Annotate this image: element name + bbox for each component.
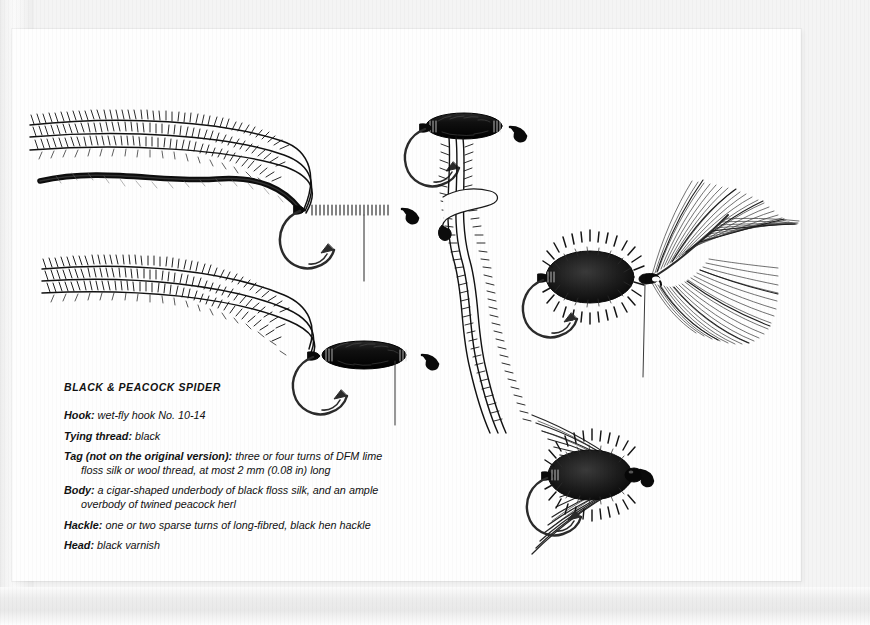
scanned-page-background: BLACK & PEACOCK SPIDER Hook: wet-fly hoo… — [0, 0, 870, 625]
recipe-label-head: Head: — [64, 539, 94, 551]
finished-fly — [527, 415, 653, 554]
recipe-label-body: Body: — [64, 484, 95, 496]
recipe-value-tying-thread: black — [132, 430, 160, 442]
twisted-silk-strand — [40, 173, 300, 209]
peacock-herl-bundle-upper — [30, 110, 312, 213]
recipe-label-hackle: Hackle: — [64, 519, 102, 531]
scan-bottom-edge — [0, 587, 870, 625]
recipe-value-tag: three or four turns of DFM — [232, 450, 359, 462]
recipe-value-hackle: one or two sparse turns of long-fibred, … — [102, 519, 370, 531]
recipe-entry-hook: Hook: wet-fly hook No. 10-14 — [64, 409, 394, 423]
recipe-entry-body: Body: a cigar-shaped underbody of black … — [64, 484, 394, 511]
peacock-herl-bundle-lower — [42, 255, 315, 357]
recipe-entry-head: Head: black varnish — [64, 539, 394, 553]
hook-herl-wound-body — [523, 230, 661, 377]
printed-page: BLACK & PEACOCK SPIDER Hook: wet-fly hoo… — [12, 29, 801, 581]
recipe-value-hook: wet-fly hook No. 10-14 — [95, 409, 206, 421]
recipe-label-tying-thread: Tying thread: — [64, 430, 132, 442]
recipe-value-head: black varnish — [94, 539, 160, 551]
hook-herl-tied-in — [405, 113, 531, 433]
recipe-entry-tag: Tag (not on the original version): three… — [64, 450, 394, 477]
hook-with-thread-base — [280, 205, 418, 281]
recipe-entry-hackle: Hackle: one or two sparse turns of long-… — [64, 519, 394, 533]
page-title: BLACK & PEACOCK SPIDER — [64, 381, 394, 393]
recipe-label-tag: Tag (not on the original version): — [64, 450, 232, 462]
recipe-entry-tying-thread: Tying thread: black — [64, 430, 394, 444]
hanging-twined-herl — [438, 137, 531, 433]
recipe-caption-block: BLACK & PEACOCK SPIDER Hook: wet-fly hoo… — [64, 381, 394, 560]
hen-hackle-feather — [646, 180, 799, 344]
recipe-value-body: a cigar-shaped underbody of black floss … — [95, 484, 346, 496]
recipe-label-hook: Hook: — [64, 409, 95, 421]
